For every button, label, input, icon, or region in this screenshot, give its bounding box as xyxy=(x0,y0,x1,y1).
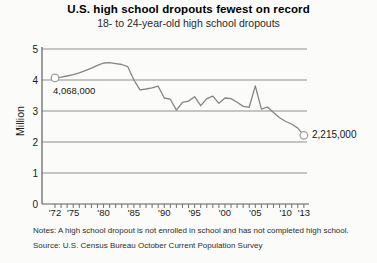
x-tick-label: '00 xyxy=(219,207,231,218)
y-tick-label: 5 xyxy=(32,44,38,55)
y-tick-label: 4 xyxy=(32,75,38,86)
x-tick-label: '05 xyxy=(249,207,261,218)
last-point-marker xyxy=(300,132,308,140)
first-point-marker xyxy=(51,74,59,82)
chart-notes: Notes: A high school dropout is not enro… xyxy=(33,226,373,235)
y-tick-label: 1 xyxy=(32,168,38,179)
x-tick-label: '10 xyxy=(279,207,291,218)
x-tick-label: '85 xyxy=(128,207,140,218)
chart-source: Source: U.S. Census Bureau October Curre… xyxy=(33,241,373,250)
last-point-value-label: 2,215,000 xyxy=(312,129,357,140)
x-tick-label: '80 xyxy=(97,207,109,218)
x-tick-label: '75 xyxy=(67,207,79,218)
first-point-value-label: 4,068,000 xyxy=(53,85,95,96)
dropouts-line-series xyxy=(55,63,304,136)
x-tick-label: '95 xyxy=(188,207,200,218)
x-tick-label: '90 xyxy=(158,207,170,218)
y-tick-label: 2 xyxy=(32,137,38,148)
x-tick-label: '72 xyxy=(49,207,61,218)
chart-figure: U.S. high school dropouts fewest on reco… xyxy=(0,0,377,263)
y-tick-label: 0 xyxy=(32,199,38,210)
y-tick-label: 3 xyxy=(32,106,38,117)
x-tick-label: '13 xyxy=(298,207,310,218)
